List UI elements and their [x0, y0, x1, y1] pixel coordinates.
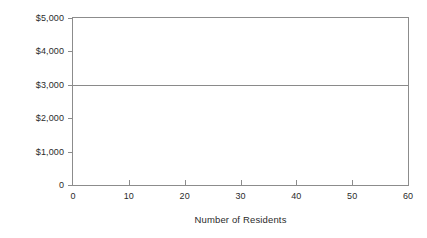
x-axis-tick: [296, 180, 297, 185]
y-axis-tick: [68, 118, 73, 119]
x-axis-title: Number of Residents: [72, 214, 409, 225]
y-axis-tick: [68, 85, 73, 86]
x-axis-tick: [129, 180, 130, 185]
x-axis-tick-label: 50: [347, 192, 357, 201]
y-axis-tick: [68, 152, 73, 153]
y-axis-tick-label: 0: [59, 181, 64, 190]
x-axis-tick: [241, 180, 242, 185]
y-axis-tick: [68, 18, 73, 19]
x-axis-tick: [185, 180, 186, 185]
y-axis-tick: [68, 185, 73, 186]
data-series-line: [73, 85, 408, 86]
y-axis-tick-label: $1,000: [36, 147, 64, 156]
y-axis-tick-label: $3,000: [36, 80, 64, 89]
y-axis-tick: [68, 51, 73, 52]
plot-area: 0$1,000$2,000$3,000$4,000$5,000 01020304…: [72, 17, 409, 186]
x-axis-tick-label: 30: [235, 192, 245, 201]
x-axis-tick-label: 0: [70, 192, 75, 201]
x-axis-tick: [352, 180, 353, 185]
y-axis-tick-label: $4,000: [36, 47, 64, 56]
x-axis-tick-label: 40: [291, 192, 301, 201]
y-axis-tick-label: $5,000: [36, 14, 64, 23]
y-axis-tick-label: $2,000: [36, 114, 64, 123]
x-axis-tick-label: 10: [124, 192, 134, 201]
x-axis-tick-label: 20: [180, 192, 190, 201]
fixed-cost-line-chart: 0$1,000$2,000$3,000$4,000$5,000 01020304…: [0, 0, 427, 238]
x-axis-tick-label: 60: [403, 192, 413, 201]
